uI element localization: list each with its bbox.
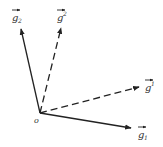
vector-g-sub-1 [40,113,131,128]
vector-diagram: g 2 g 2 g 1 g 1 o [0,0,163,147]
label-g-sub-2: g 2 [12,10,22,24]
svg-text:1: 1 [151,80,155,87]
origin-label: o [34,116,39,125]
label-g-sup-1: g 1 [145,80,155,93]
svg-text:2: 2 [17,17,22,24]
label-g-sub-1: g 1 [138,127,148,141]
label-g-sup-2: g 2 [57,10,67,23]
diagram-canvas: g 2 g 2 g 1 g 1 o [0,0,163,147]
vector-g-sup-1 [40,87,139,113]
svg-text:2: 2 [62,10,67,17]
svg-text:1: 1 [144,134,148,141]
vector-g-sup-2 [40,28,61,113]
vector-g-sub-2 [21,29,40,113]
